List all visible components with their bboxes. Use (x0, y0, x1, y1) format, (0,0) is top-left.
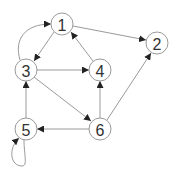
node-1: 1 (51, 13, 73, 35)
node-5: 5 (15, 118, 37, 140)
nodes: 1 2 3 4 5 6 (15, 13, 168, 140)
edges (12, 24, 151, 166)
node-4: 4 (89, 59, 111, 81)
edge-3-6 (34, 77, 91, 121)
edge-6-2 (107, 53, 151, 120)
node-6: 6 (89, 118, 111, 140)
node-5-label: 5 (22, 122, 31, 139)
node-2: 2 (146, 32, 168, 54)
graph-canvas: 1 2 3 4 5 6 (0, 0, 180, 178)
node-4-label: 4 (96, 63, 105, 80)
edge-5-5-loop (12, 138, 26, 166)
edge-3-1 (18, 24, 51, 60)
edge-1-2 (73, 26, 146, 40)
node-1-label: 1 (58, 17, 67, 34)
edge-1-3 (34, 32, 54, 61)
node-3: 3 (15, 59, 37, 81)
node-3-label: 3 (22, 63, 31, 80)
node-6-label: 6 (96, 122, 105, 139)
edge-4-1 (71, 32, 93, 61)
node-2-label: 2 (153, 36, 162, 53)
